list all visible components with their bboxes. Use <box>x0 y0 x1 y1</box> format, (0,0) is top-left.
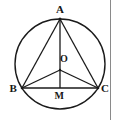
segment-oc-radius <box>60 70 98 88</box>
point-b-marker <box>21 87 24 90</box>
point-label-m: M <box>55 91 64 101</box>
point-o-marker <box>59 69 61 71</box>
geometry-figure: A O B M C <box>0 0 120 120</box>
point-label-b: B <box>10 83 17 94</box>
point-c-marker <box>97 87 100 90</box>
segment-ob-radius <box>22 70 60 88</box>
point-label-o: O <box>60 54 68 64</box>
segment-ab <box>22 19 60 88</box>
page-border-rule <box>110 0 111 120</box>
point-label-a: A <box>56 4 64 15</box>
point-label-c: C <box>101 83 109 94</box>
point-a-marker <box>59 18 62 21</box>
